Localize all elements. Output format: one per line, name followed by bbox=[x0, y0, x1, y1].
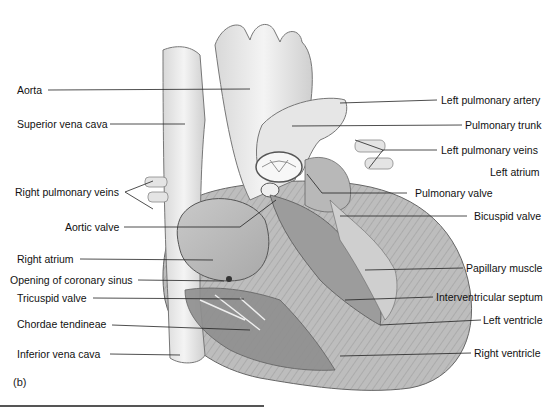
label-papillary-muscle: Papillary muscle bbox=[466, 262, 542, 274]
heart-diagram: Aorta Superior vena cava Right pulmonary… bbox=[0, 0, 551, 409]
label-pulmonary-trunk: Pulmonary trunk bbox=[465, 119, 541, 131]
label-left-pulmonary-veins: Left pulmonary veins bbox=[441, 144, 538, 156]
label-interventricular-septum: Interventricular septum bbox=[436, 291, 543, 303]
panel-label: (b) bbox=[13, 376, 26, 388]
label-right-ventricle: Right ventricle bbox=[474, 347, 541, 359]
label-opening-coronary-sinus: Opening of coronary sinus bbox=[10, 274, 133, 286]
bottom-rule bbox=[0, 405, 264, 407]
label-chordae-tendineae: Chordae tendineae bbox=[17, 318, 106, 330]
label-superior-vena-cava: Superior vena cava bbox=[17, 118, 107, 130]
label-bicuspid-valve: Bicuspid valve bbox=[474, 210, 541, 222]
label-right-atrium: Right atrium bbox=[17, 253, 74, 265]
label-left-atrium: Left atrium bbox=[490, 166, 540, 178]
label-tricuspid-valve: Tricuspid valve bbox=[17, 292, 87, 304]
label-pulmonary-valve: Pulmonary valve bbox=[415, 187, 493, 199]
label-left-ventricle: Left ventricle bbox=[483, 314, 543, 326]
label-right-pulmonary-veins: Right pulmonary veins bbox=[15, 186, 119, 198]
label-aorta: Aorta bbox=[17, 84, 42, 96]
label-inferior-vena-cava: Inferior vena cava bbox=[17, 348, 100, 360]
label-aortic-valve: Aortic valve bbox=[65, 221, 119, 233]
label-left-pulmonary-artery: Left pulmonary artery bbox=[441, 94, 540, 106]
